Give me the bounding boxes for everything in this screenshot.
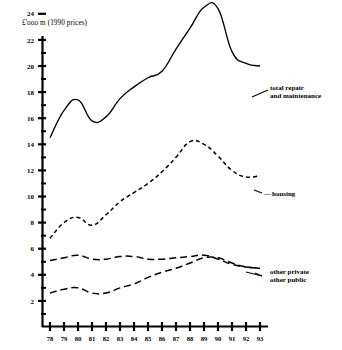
- x-tick-label: 87: [173, 335, 180, 342]
- x-tick-label: 91: [229, 335, 236, 342]
- series-housing: [50, 140, 260, 238]
- y-tick-label: 16: [27, 115, 35, 123]
- x-tick-label: 86: [159, 335, 166, 342]
- y-tick-label: 14: [27, 141, 35, 149]
- x-tick-label: 80: [75, 335, 82, 342]
- y-tick-labels: 24681012141618202224: [27, 10, 35, 305]
- y-tick-label: 22: [27, 37, 35, 45]
- y-tick-label: 18: [27, 89, 35, 97]
- line-chart: £'ooo m (1990 prices) 246810121416182022…: [0, 0, 342, 350]
- y-tick-label: 8: [31, 219, 35, 227]
- series-other-public: [50, 257, 260, 294]
- other-public-label: other public: [270, 276, 306, 284]
- x-tick-label: 82: [103, 335, 110, 342]
- label-total-repair: total repair and maintenance: [252, 84, 321, 100]
- total-repair-label-line1: total repair: [270, 84, 304, 92]
- x-tick-label: 89: [201, 335, 208, 342]
- y-tick-label: 10: [27, 193, 35, 201]
- housing-dash-marker: —: [263, 190, 272, 198]
- x-axis: 78798081828384858687888990919293: [42, 322, 268, 342]
- total-repair-label-line2: and maintenance: [270, 92, 321, 100]
- x-tick-label: 90: [215, 335, 222, 342]
- x-tick-label: 85: [145, 335, 152, 342]
- y-tick-label: 4: [31, 271, 35, 279]
- y-tick-label: 24: [27, 10, 35, 18]
- label-other-series: other private other public: [246, 268, 309, 284]
- x-tick-label: 88: [187, 335, 194, 342]
- x-tick-label: 81: [89, 335, 96, 342]
- x-tick-label: 83: [117, 335, 124, 342]
- y-axis-title: £'ooo m (1990 prices): [22, 19, 88, 27]
- y-tick-label: 20: [27, 63, 35, 71]
- x-tick-label: 93: [257, 335, 264, 342]
- y-tick-label: 12: [27, 167, 35, 175]
- x-tick-label: 84: [131, 335, 138, 342]
- label-housing: — housing: [254, 190, 296, 198]
- chart-container: £'ooo m (1990 prices) 246810121416182022…: [0, 0, 342, 350]
- y-tick-label: 6: [31, 245, 35, 253]
- y-tick-label: 2: [31, 298, 35, 306]
- x-tick-labels: 78798081828384858687888990919293: [47, 335, 264, 342]
- other-private-label: other private: [270, 268, 309, 276]
- x-tick-label: 92: [243, 335, 250, 342]
- series-group: [50, 3, 260, 294]
- y-axis: 24681012141618202224: [27, 10, 46, 327]
- x-tick-label: 79: [61, 335, 68, 342]
- x-tick-label: 78: [47, 335, 54, 342]
- housing-label: housing: [272, 190, 296, 198]
